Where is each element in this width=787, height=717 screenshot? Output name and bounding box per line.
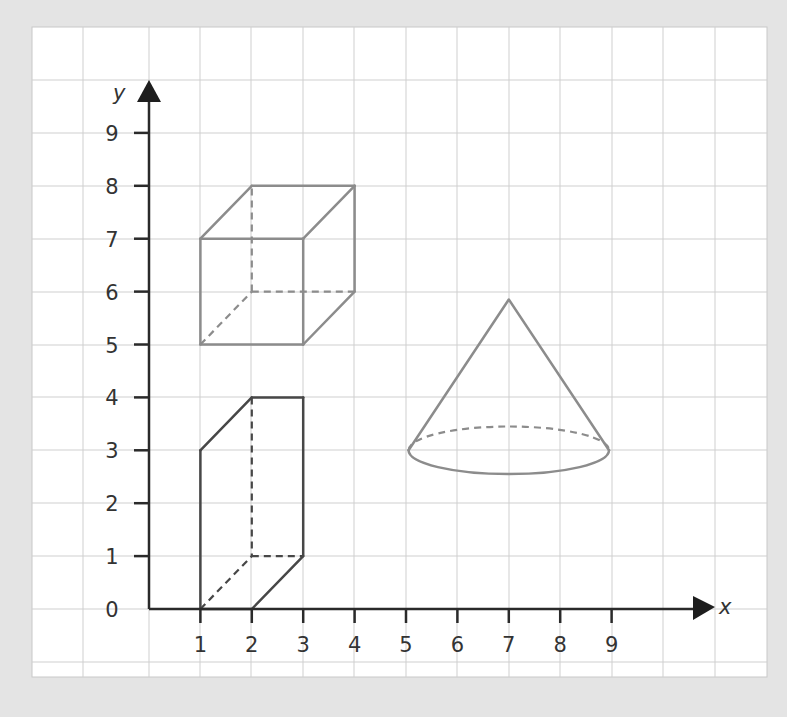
x-tick-label: 1 [194,633,207,657]
x-tick-label: 5 [399,633,412,657]
y-tick-label: 9 [105,122,118,146]
y-tick-label: 0 [105,598,118,622]
x-tick-label: 7 [502,633,515,657]
x-tick-label: 4 [348,633,361,657]
y-tick-label: 5 [105,334,118,358]
y-axis-label: y [112,81,126,105]
x-axis-label: x [718,595,732,619]
x-tick-label: 6 [451,633,464,657]
coordinate-figure: y x 123456789 0123456789 [0,0,787,717]
y-tick-label: 2 [105,492,118,516]
grid-panel [32,27,767,677]
x-tick-label: 9 [605,633,618,657]
y-tick-label: 8 [105,175,118,199]
y-tick-label: 6 [105,281,118,305]
y-tick-label: 1 [105,545,118,569]
y-tick-label: 7 [105,228,118,252]
y-tick-label: 3 [105,439,118,463]
y-tick-label: 4 [105,386,118,410]
x-tick-label: 2 [245,633,258,657]
x-tick-label: 3 [297,633,310,657]
x-tick-label: 8 [554,633,567,657]
